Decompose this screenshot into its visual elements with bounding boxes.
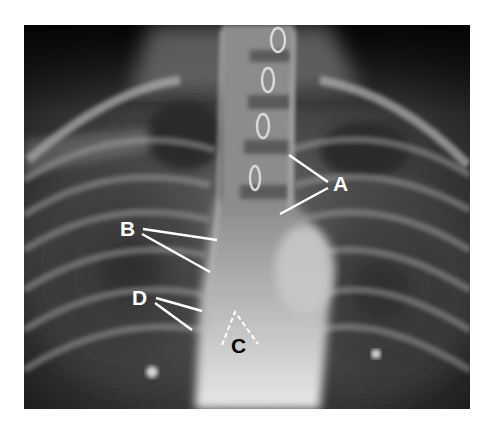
labeled-chest-xray-figure: A B C D (0, 0, 495, 426)
label-d-pointer-lines (155, 298, 202, 330)
label-c: C (231, 334, 246, 357)
label-a: A (333, 172, 348, 195)
label-b: B (120, 217, 135, 240)
annotation-overlay: A B C D (0, 0, 495, 426)
label-a-pointer-lines (280, 155, 328, 214)
label-b-pointer-lines (142, 229, 217, 272)
label-d: D (132, 286, 147, 309)
